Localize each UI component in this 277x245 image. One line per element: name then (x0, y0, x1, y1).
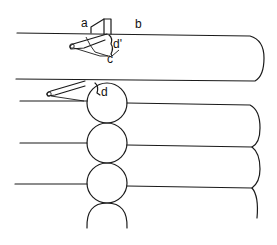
top-apparatus (70, 19, 119, 56)
label-b: b (135, 17, 142, 31)
cross-section-arc-partial (87, 203, 127, 228)
lower-apparatus (47, 81, 100, 101)
label-c: c (107, 52, 113, 66)
second-cylinder (20, 101, 260, 147)
cross-section-column (87, 83, 127, 228)
label-a: a (81, 16, 88, 30)
label-d: d (101, 85, 108, 99)
diagram-canvas: a b d' c d (0, 0, 277, 245)
top-cylinder (16, 33, 264, 81)
third-cylinder (20, 143, 260, 188)
cross-section-circle-2 (87, 123, 127, 163)
fourth-cylinder (15, 184, 257, 218)
cross-section-circle-3 (87, 163, 127, 203)
label-d-prime: d' (113, 37, 122, 51)
